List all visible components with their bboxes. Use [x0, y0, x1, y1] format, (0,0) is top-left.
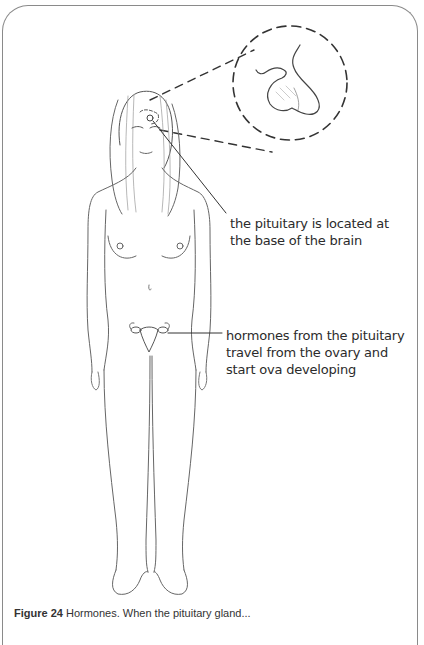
figure-head	[110, 91, 180, 216]
hormones-label-line-3: start ova developing	[226, 361, 404, 378]
figure-caption: Figure 24 Hormones. When the pituitary g…	[14, 607, 251, 619]
uterus-ovaries	[130, 323, 170, 352]
pituitary-inset	[150, 26, 347, 152]
pituitary-label: the pituitary is located at the base of …	[230, 215, 389, 249]
figure-body	[87, 168, 211, 594]
hormones-label-line-1: hormones from the pituitary	[226, 327, 404, 344]
pituitary-label-line-1: the pituitary is located at	[230, 215, 389, 232]
figure-number: Figure 24	[14, 607, 63, 619]
hormones-label-line-2: travel from the ovary and	[226, 344, 404, 361]
pituitary-label-line-2: the base of the brain	[230, 232, 389, 249]
hormones-label: hormones from the pituitary travel from …	[226, 327, 404, 378]
figure-caption-text: Hormones. When the pituitary gland...	[66, 607, 251, 619]
